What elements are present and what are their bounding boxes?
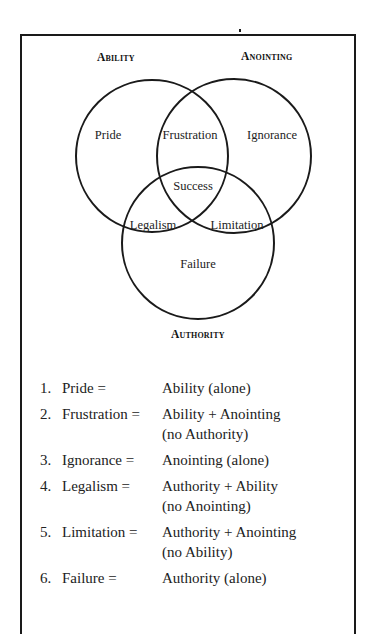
item-term: Frustration =: [62, 404, 162, 444]
item-term: Failure =: [62, 568, 162, 588]
item-term: Ignorance =: [62, 450, 162, 470]
item-term: Pride =: [62, 378, 162, 398]
legend-item: 2. Frustration = Ability + Anointing(no …: [40, 404, 350, 444]
item-number: 1.: [40, 378, 62, 398]
region-ignorance: Ignorance: [247, 128, 297, 143]
anointing-label: Anointing: [241, 50, 292, 62]
item-definition: Authority + Ability(no Anointing): [162, 476, 350, 516]
item-definition: Ability + Anointing(no Authority): [162, 404, 350, 444]
item-term: Limitation =: [62, 522, 162, 562]
item-number: 2.: [40, 404, 62, 444]
legend-item: 6. Failure = Authority (alone): [40, 568, 350, 588]
item-number: 6.: [40, 568, 62, 588]
item-number: 5.: [40, 522, 62, 562]
item-definition: Anointing (alone): [162, 450, 350, 470]
item-definition: Authority (alone): [162, 568, 350, 588]
legend-item: 4. Legalism = Authority + Ability(no Ano…: [40, 476, 350, 516]
authority-label: Authority: [171, 328, 225, 340]
legend-list: 1. Pride = Ability (alone) 2. Frustratio…: [40, 378, 350, 594]
region-legalism: Legalism: [130, 218, 177, 233]
region-frustration: Frustration: [163, 128, 218, 143]
ability-circle: [76, 80, 228, 232]
item-term: Legalism =: [62, 476, 162, 516]
region-success: Success: [173, 179, 213, 194]
legend-item: 3. Ignorance = Anointing (alone): [40, 450, 350, 470]
anointing-circle: [157, 79, 311, 233]
region-pride: Pride: [95, 128, 121, 143]
ability-label: Ability: [97, 51, 135, 63]
region-failure: Failure: [180, 257, 215, 272]
legend-item: 5. Limitation = Authority + Anointing(no…: [40, 522, 350, 562]
legend-item: 1. Pride = Ability (alone): [40, 378, 350, 398]
item-number: 4.: [40, 476, 62, 516]
item-definition: Ability (alone): [162, 378, 350, 398]
region-limitation: Limitation: [211, 218, 264, 233]
item-definition: Authority + Anointing(no Ability): [162, 522, 350, 562]
item-number: 3.: [40, 450, 62, 470]
